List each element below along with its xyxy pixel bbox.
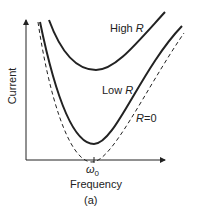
x-axis-label: Frequency xyxy=(70,178,122,190)
x-tick-omega0: ω0 xyxy=(86,163,99,178)
curve-low-r xyxy=(40,22,182,144)
label-low-r: Low R xyxy=(102,84,133,96)
curve-high-r xyxy=(49,12,165,70)
label-high-r: High R xyxy=(110,22,144,34)
y-axis-label: Current xyxy=(6,68,18,105)
figure-caption: (a) xyxy=(84,194,97,206)
label-r-zero: R=0 xyxy=(136,112,157,124)
